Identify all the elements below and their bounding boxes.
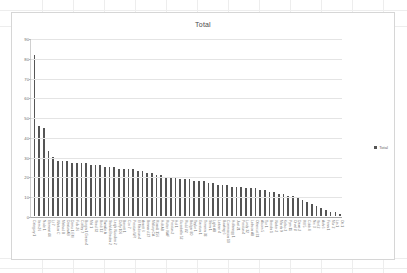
bar[interactable] [330,212,332,216]
y-axis-tick-label: 60 [24,96,29,101]
bar[interactable] [231,187,233,217]
chart-container[interactable]: Total 0102030405060708090 Category 1Item… [11,12,395,260]
bar[interactable] [287,196,289,216]
bar[interactable] [113,167,115,216]
bar[interactable] [43,128,45,217]
bar[interactable] [118,169,120,216]
x-axis-tick-label: Burdi 12 [98,220,101,232]
bar[interactable] [71,163,73,216]
bar[interactable] [104,167,106,216]
bar[interactable] [193,181,195,216]
x-axis-tick-label: Denton AB [65,220,68,236]
bar[interactable] [109,167,111,216]
x-axis-tick-label: Breslin 1 [268,220,271,233]
y-axis-tick-label: 20 [24,175,29,180]
bar[interactable] [320,208,322,216]
x-axis-tick-label: Gusabella 52 [178,220,181,239]
legend-swatch-icon [374,146,378,150]
x-axis-tick-label: Lin 1 [335,220,338,227]
x-axis-tick-label: Hol 1 [174,220,177,228]
bar[interactable] [48,151,50,216]
bar[interactable] [297,198,299,216]
bar[interactable] [76,163,78,216]
bar[interactable] [226,185,228,216]
x-axis-tick-label: Bowling 6 [221,220,224,234]
bar[interactable] [269,192,271,216]
bar[interactable] [160,175,162,216]
bar[interactable] [208,183,210,216]
bar[interactable] [325,210,327,216]
x-axis-tick-label: Ronald 156 [155,220,158,237]
x-axis-tick-label: Item 26 [36,220,39,231]
bar[interactable] [66,161,68,216]
x-axis-tick-label: Preston WR [131,220,134,238]
bar[interactable] [156,175,158,216]
bar[interactable] [62,161,64,216]
bar[interactable] [335,212,337,216]
bar[interactable] [292,196,294,216]
bar[interactable] [52,157,54,216]
x-axis-tick-label: Element 44 [46,220,49,237]
bar[interactable] [316,206,318,216]
bar[interactable] [245,188,247,216]
x-axis-tick-label: Fenn 1 [325,220,328,230]
x-axis-tick-label: Holt AB [160,220,163,231]
bar[interactable] [311,204,313,216]
x-axis-tick-label: Lathron AB [249,220,252,236]
bar-series [32,39,342,216]
bar[interactable] [255,188,257,216]
bar[interactable] [132,169,134,216]
x-axis-tick-label: Cox 7 [126,220,129,229]
y-axis-tick-label: 10 [24,195,29,200]
bar[interactable] [339,214,341,216]
x-axis-tick-label: Duffy 106 [117,220,120,234]
x-axis-tick-label: Node 1 [41,220,44,231]
bar[interactable] [203,181,205,216]
chart-legend[interactable]: Total [374,145,388,150]
bar[interactable] [146,173,148,216]
x-axis-tick-label: Pym 11 [287,220,290,231]
gridline [31,138,342,139]
bar[interactable] [57,161,59,216]
x-axis-tick-label: Mor 2 [330,220,333,228]
gridline [31,79,342,80]
x-axis-tick-label: Light AB [212,220,215,232]
bar[interactable] [236,187,238,217]
bar[interactable] [123,169,125,216]
bar[interactable] [38,126,40,216]
bar[interactable] [151,173,153,216]
x-axis-tick-label: Alcorn 5 [259,220,262,232]
bar[interactable] [222,185,224,216]
bar[interactable] [81,163,83,216]
bar[interactable] [198,181,200,216]
bar[interactable] [212,183,214,216]
x-axis-tick-label: Lordy 32 [245,220,248,233]
x-axis-tick-label: Dawe 2 [297,220,300,231]
bar[interactable] [217,185,219,216]
bar[interactable] [240,187,242,217]
bar[interactable] [95,165,97,216]
bar[interactable] [99,165,101,216]
x-axis-tick-label: Ott 1 [339,220,342,227]
bar[interactable] [90,165,92,216]
x-axis-tick-label: Stahl & Braden 2 [107,220,110,245]
x-axis-tick-label: Mallory CA [150,220,153,236]
x-axis-tick-label: Burgin 1 Green 4 [84,220,87,245]
bar[interactable] [302,200,304,216]
bar[interactable] [264,190,266,216]
bar[interactable] [306,202,308,216]
bar[interactable] [259,190,261,216]
x-axis-tick-label: El Madison 4 [136,220,139,239]
bar[interactable] [128,169,130,216]
x-axis-tick-label: Method B [60,220,63,234]
x-axis-tick-label: Whitton C [55,220,58,234]
x-axis-tick-label: Hollenegg 1 [231,220,234,238]
gridline [31,118,342,119]
bar[interactable] [250,188,252,216]
x-axis-tick-label: Barrett 1 [122,220,125,233]
x-axis-labels: Category 1Item 26Node 1Element 44Lt 7Whi… [31,219,343,261]
x-axis-tick-label: Rudd 82 [183,220,186,232]
bar[interactable] [85,163,87,216]
chart-title: Total [12,21,394,28]
bar[interactable] [273,192,275,216]
